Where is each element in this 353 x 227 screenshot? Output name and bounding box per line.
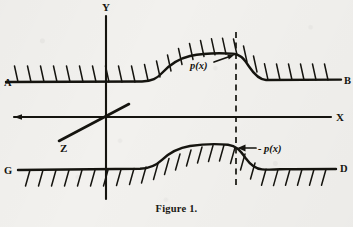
lower-boundary-left-label: G — [4, 165, 12, 176]
lower-pressure-label: - p(x) — [258, 143, 282, 155]
upper-pressure-arrowhead — [227, 54, 234, 59]
x-axis-label: X — [336, 111, 344, 123]
figure-canvas: Y X Z — [0, 0, 353, 227]
upper-boundary-hatching — [15, 38, 329, 82]
upper-pressure-annotation: p(x) — [189, 54, 235, 72]
figure-caption: Figure 1. — [0, 203, 353, 214]
upper-pressure-label: p(x) — [189, 60, 208, 72]
lower-pressure-annotation: - p(x) — [238, 143, 282, 155]
y-axis-label: Y — [102, 1, 110, 13]
upper-boundary-curve: A B — [4, 38, 351, 88]
figure-page: Y X Z — [0, 0, 353, 227]
x-axis: X — [14, 111, 344, 123]
z-axis-label: Z — [60, 142, 67, 154]
z-axis-line — [59, 104, 129, 141]
lower-boundary-right-label: D — [340, 163, 348, 174]
x-axis-left-arrowhead — [14, 114, 22, 120]
lower-boundary-curve: G D — [4, 144, 348, 186]
upper-boundary-left-label: A — [4, 77, 12, 88]
z-axis: Z — [59, 104, 129, 154]
upper-boundary-right-label: B — [344, 75, 351, 86]
